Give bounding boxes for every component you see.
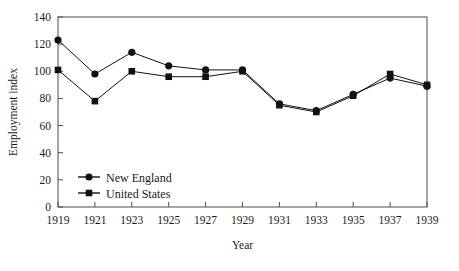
x-tick-label: 1931 (268, 214, 291, 226)
y-tick-label: 60 (40, 120, 52, 132)
data-point-square (202, 73, 209, 80)
x-tick-label: 1923 (120, 214, 143, 226)
x-tick-label: 1929 (231, 214, 254, 226)
data-point-square (129, 68, 136, 75)
data-point-circle (91, 70, 98, 77)
x-tick-label: 1933 (305, 214, 328, 226)
x-axis-title: Year (232, 239, 253, 251)
data-point-square (350, 92, 357, 99)
legend-marker-circle (85, 173, 92, 180)
series-united-states (55, 67, 431, 116)
x-tick-label: 1921 (83, 214, 106, 226)
legend-item: United States (78, 187, 171, 201)
y-tick-label: 140 (34, 11, 52, 23)
x-tick-label: 1935 (342, 214, 365, 226)
data-point-circle (165, 62, 172, 69)
data-point-square (92, 98, 99, 105)
x-axis: 1919192119231925192719291931193319351937… (47, 202, 439, 251)
x-tick-label: 1919 (47, 214, 70, 226)
y-tick-label: 0 (45, 201, 51, 213)
data-point-square (387, 71, 394, 78)
data-point-square (276, 102, 283, 109)
legend-label: New England (106, 171, 172, 185)
y-tick-label: 80 (40, 92, 52, 104)
data-point-square (55, 67, 62, 74)
series-line (58, 70, 427, 112)
data-point-square (313, 109, 320, 116)
series-line (58, 40, 427, 111)
legend-label: United States (106, 187, 171, 201)
legend-item: New England (78, 171, 172, 185)
x-tick-label: 1939 (416, 214, 439, 226)
data-point-square (239, 68, 246, 75)
y-tick-label: 100 (34, 65, 52, 77)
data-point-circle (128, 49, 135, 56)
y-tick-label: 120 (34, 38, 52, 50)
x-tick-label: 1937 (379, 214, 402, 226)
chart-legend: New EnglandUnited States (78, 171, 172, 201)
y-tick-label: 40 (40, 147, 52, 159)
data-point-circle (202, 66, 209, 73)
data-point-square (165, 73, 172, 80)
series-new-england (54, 36, 430, 114)
x-tick-label: 1925 (157, 214, 180, 226)
data-point-circle (54, 36, 61, 43)
employment-index-chart-figure: 020406080100120140Employment index191919… (0, 0, 459, 271)
y-tick-label: 20 (40, 174, 52, 186)
data-point-square (424, 82, 431, 89)
chart-canvas: 020406080100120140Employment index191919… (0, 0, 459, 271)
x-tick-label: 1927 (194, 214, 217, 226)
y-axis: 020406080100120140Employment index (7, 11, 63, 213)
legend-marker-square (86, 190, 93, 197)
y-axis-title: Employment index (7, 68, 20, 156)
